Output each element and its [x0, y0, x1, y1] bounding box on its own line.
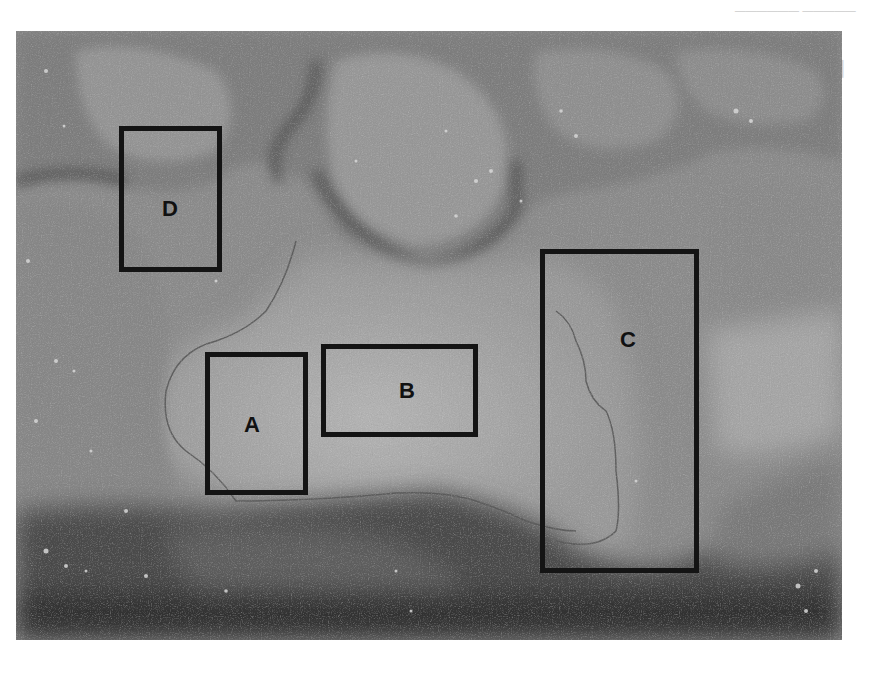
- region-box-c: [540, 249, 699, 573]
- tissue-texture: [16, 31, 842, 640]
- region-label-a: A: [244, 414, 260, 436]
- region-label-d: D: [162, 198, 178, 220]
- bleed-through-text: ────── ─────: [735, 2, 856, 21]
- figure-page: ────── ───── ▏: [0, 0, 874, 674]
- region-label-b: B: [399, 380, 415, 402]
- tissue-photograph: D A B C: [16, 31, 842, 640]
- region-label-c: C: [620, 329, 636, 351]
- bleed-through-text: ▏: [842, 60, 854, 79]
